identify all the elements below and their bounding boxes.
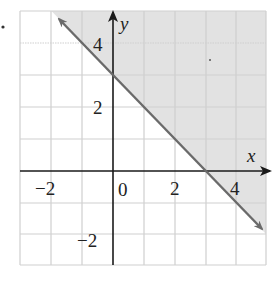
x-tick-2: 2 bbox=[170, 178, 180, 199]
x-tick-neg2: −2 bbox=[35, 178, 55, 199]
y-axis-label: y bbox=[118, 13, 129, 34]
y-tick-2: 2 bbox=[93, 97, 103, 118]
x-tick-4: 4 bbox=[230, 178, 240, 199]
x-tick-0: 0 bbox=[118, 179, 128, 200]
x-axis-label: x bbox=[246, 145, 256, 166]
inequality-graph: y x −2 0 2 4 4 2 −2 bbox=[0, 0, 280, 281]
speck bbox=[209, 59, 211, 61]
y-tick-4: 4 bbox=[93, 34, 103, 55]
y-tick-neg2: −2 bbox=[77, 230, 97, 251]
problem-bullet bbox=[1, 25, 4, 28]
